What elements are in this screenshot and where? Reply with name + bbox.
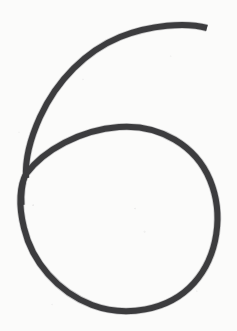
digit-canvas: 6	[0, 0, 237, 331]
handwritten-digit-six-drawing	[0, 0, 237, 331]
